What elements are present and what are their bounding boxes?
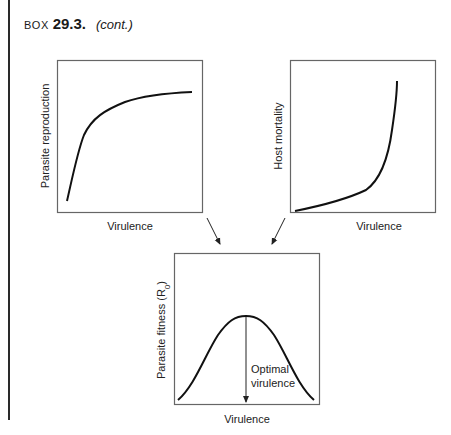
x-axis-label: Virulence	[356, 220, 402, 232]
plot-frame	[291, 61, 436, 213]
y-axis-label: Parasite fitness (R0)	[155, 281, 172, 379]
arrow-from-reproduction	[207, 218, 220, 244]
y-axis-label: Parasite reproduction	[39, 84, 51, 189]
y-axis-label: Host mortality	[272, 102, 284, 170]
annotation-line-2: virulence	[251, 377, 295, 389]
arrow-from-mortality	[272, 218, 285, 244]
panel-parasite-fitness: Optimal virulence Parasite fitness (R0) …	[155, 254, 320, 426]
reproduction-curve	[67, 92, 192, 201]
panel-host-mortality: Host mortality Virulence	[272, 61, 436, 233]
x-axis-label: Virulence	[224, 413, 270, 425]
diagram-canvas: Parasite reproduction Virulence Host mor…	[0, 0, 451, 435]
x-axis-label: Virulence	[107, 220, 153, 232]
plot-frame	[175, 254, 320, 405]
annotation-line-1: Optimal	[251, 363, 289, 375]
mortality-curve	[295, 81, 397, 211]
panel-parasite-reproduction: Parasite reproduction Virulence	[39, 61, 203, 233]
plot-frame	[58, 61, 203, 213]
